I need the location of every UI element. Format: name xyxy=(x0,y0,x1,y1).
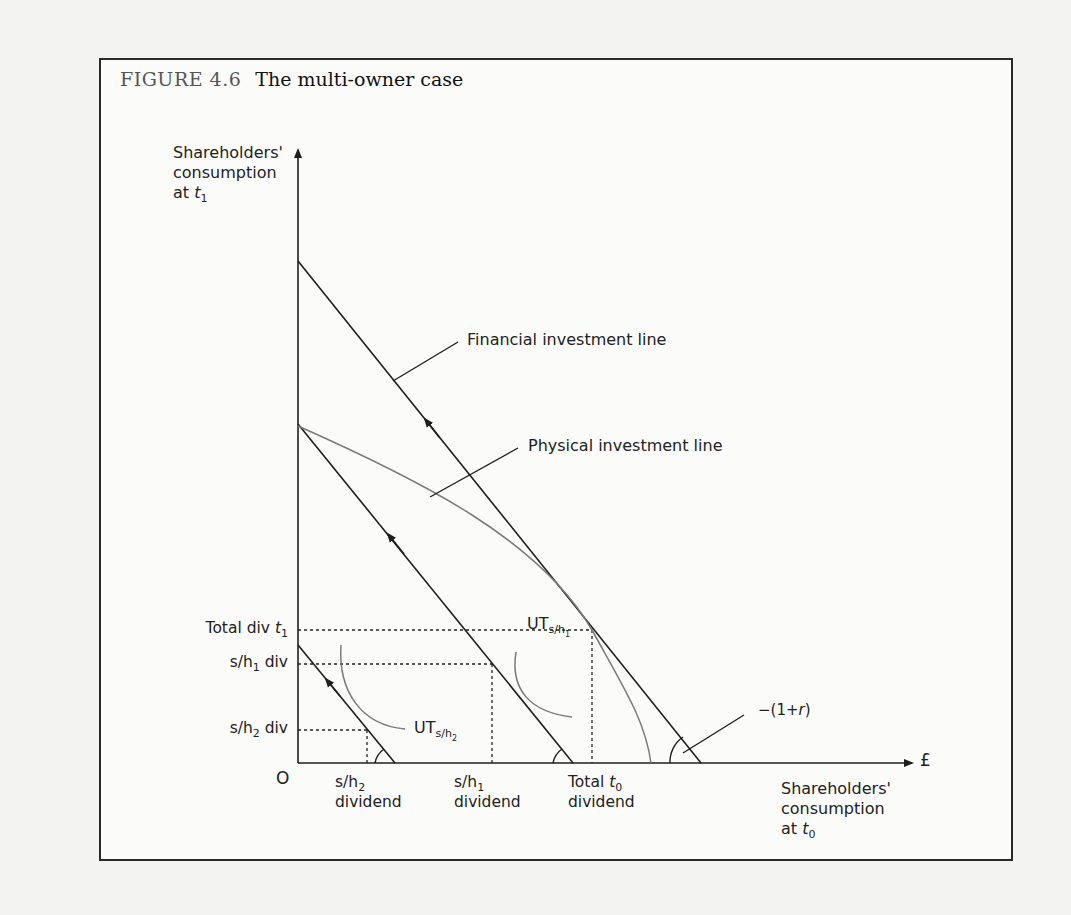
leader-lines xyxy=(393,342,744,753)
x-tick-sh2-dividend: s/h2 dividend xyxy=(335,772,402,812)
x-label-prefix: at xyxy=(781,819,802,838)
ut-sh2-label: UTs/h2 xyxy=(414,718,457,739)
x-tick-total-line1: Total t0 xyxy=(568,772,635,792)
x-axis-unit: £ xyxy=(920,750,931,770)
dashed-guides xyxy=(298,630,592,763)
y-axis-label-line2: consumption xyxy=(173,163,283,183)
sh1-budget-line xyxy=(298,424,573,763)
x-tick-sh1-dividend: s/h1 dividend xyxy=(454,772,521,812)
y-label-sub: 1 xyxy=(200,192,207,205)
x-tick-total-line2: dividend xyxy=(568,792,635,812)
y-tick-total-div: Total div t1 xyxy=(206,618,288,638)
x-tick-sh1-line2: dividend xyxy=(454,792,521,812)
x-tick-sh1-line1: s/h1 xyxy=(454,772,521,792)
physical-investment-curve xyxy=(298,426,651,763)
ut-sh1-subsub: 1 xyxy=(565,630,570,639)
y-tick-sh1-sub: 1 xyxy=(253,661,260,674)
slope-angle-arcs xyxy=(375,737,683,763)
y-tick-total-sub: 1 xyxy=(281,627,288,640)
sh1-arrow xyxy=(388,534,404,554)
x-tick-sh1-prefix: s/h xyxy=(454,773,477,791)
y-axis-label: Shareholders' consumption at t1 xyxy=(173,143,283,203)
y-tick-sh2-sub: 2 xyxy=(253,727,260,740)
x-tick-sh2-prefix: s/h xyxy=(335,773,358,791)
sh2-arrow xyxy=(326,679,340,696)
x-axis-label-line2: consumption xyxy=(781,799,891,819)
x-tick-total-prefix: Total xyxy=(568,773,609,791)
x-label-sub: 0 xyxy=(808,828,815,841)
y-tick-sh2-suffix: div xyxy=(260,719,288,737)
x-tick-sh2-line1: s/h2 xyxy=(335,772,402,792)
ut-sh1-sub: s/h xyxy=(548,623,564,636)
y-tick-sh1-div: s/h1 div xyxy=(230,652,288,672)
ut-sh2-prefix: UT xyxy=(414,718,435,737)
x-axis-label-line3: at t0 xyxy=(781,819,891,839)
x-axis-label-line1: Shareholders' xyxy=(781,779,891,799)
ut-sh2-sub: s/h xyxy=(435,727,451,740)
sh2-budget-line xyxy=(298,645,395,763)
x-tick-sh2-line2: dividend xyxy=(335,792,402,812)
y-tick-sh1-suffix: div xyxy=(260,653,288,671)
y-tick-sh2-div: s/h2 div xyxy=(230,718,288,738)
slope-label: −(1+r) xyxy=(758,700,811,720)
slope-close: ) xyxy=(805,701,811,719)
ut-sh2-subsub: 2 xyxy=(452,734,457,743)
physical-line-label: Physical investment line xyxy=(528,436,722,456)
financial-arrow xyxy=(425,419,440,438)
y-tick-sh1-prefix: s/h xyxy=(230,653,253,671)
financial-line-label: Financial investment line xyxy=(467,330,666,350)
diagram-canvas xyxy=(0,0,1071,915)
ut-sh1-curve xyxy=(515,652,572,717)
y-axis-label-line3: at t1 xyxy=(173,183,283,203)
y-label-prefix: at xyxy=(173,183,194,202)
slope-prefix: −(1+ xyxy=(758,701,799,719)
ut-sh1-label: UTs/h1 xyxy=(527,614,570,635)
ut-sh2-curve xyxy=(341,645,405,729)
ut-sh1-prefix: UT xyxy=(527,614,548,633)
origin-label: O xyxy=(276,768,289,788)
x-tick-total-dividend: Total t0 dividend xyxy=(568,772,635,812)
x-axis-label: Shareholders' consumption at t0 xyxy=(781,779,891,839)
y-tick-sh2-prefix: s/h xyxy=(230,719,253,737)
y-tick-total-prefix: Total div xyxy=(206,619,275,637)
y-axis-label-line1: Shareholders' xyxy=(173,143,283,163)
